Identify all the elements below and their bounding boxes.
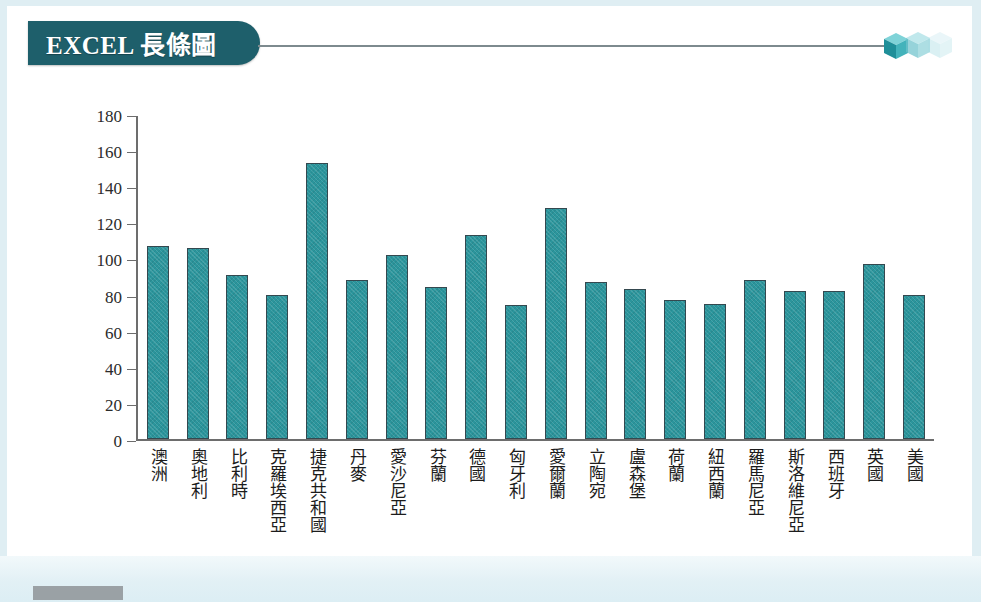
bar — [863, 264, 885, 439]
x-label-slot: 愛爾蘭 — [536, 448, 576, 533]
x-tick-label: 澳洲 — [149, 448, 166, 533]
bar-slot — [417, 116, 457, 439]
y-tick-label: 80 — [62, 288, 122, 308]
x-tick-label: 愛沙尼亞 — [388, 448, 405, 533]
y-tick-label: 0 — [62, 432, 122, 452]
x-axis-line — [136, 439, 934, 441]
frame-right-edge — [972, 0, 981, 602]
bar-slot — [894, 116, 934, 439]
x-label-slot: 澳洲 — [138, 448, 178, 533]
bar-slot — [536, 116, 576, 439]
x-label-slot: 愛沙尼亞 — [377, 448, 417, 533]
y-tick-label: 160 — [62, 143, 122, 163]
x-tick-label: 荷蘭 — [667, 448, 684, 533]
x-tick-label: 紐西蘭 — [706, 448, 723, 533]
x-tick-label: 奧地利 — [189, 448, 206, 533]
y-tick-mark — [127, 369, 136, 370]
x-tick-label: 捷克共和國 — [308, 448, 325, 533]
x-tick-label: 美國 — [905, 448, 922, 533]
x-label-slot: 英國 — [854, 448, 894, 533]
x-tick-label: 英國 — [866, 448, 883, 533]
bar-slot — [337, 116, 377, 439]
bar — [147, 246, 169, 439]
bar-slot — [456, 116, 496, 439]
x-tick-label: 匈牙利 — [507, 448, 524, 533]
bar-slot — [775, 116, 815, 439]
bar — [465, 235, 487, 439]
bar — [505, 305, 527, 439]
bar — [386, 255, 408, 439]
bar — [346, 280, 368, 439]
bar-slot — [695, 116, 735, 439]
bar-slot — [496, 116, 536, 439]
x-label-slot: 克羅埃西亞 — [257, 448, 297, 533]
x-tick-label: 德國 — [468, 448, 485, 533]
x-tick-label: 斯洛維尼亞 — [786, 448, 803, 533]
bar-slot — [616, 116, 656, 439]
bar-slot — [297, 116, 337, 439]
bar-slot — [178, 116, 218, 439]
bar-slot — [815, 116, 855, 439]
bar — [704, 304, 726, 439]
bar — [425, 287, 447, 439]
bar-slot — [218, 116, 258, 439]
y-tick-mark — [127, 297, 136, 298]
x-label-slot: 荷蘭 — [655, 448, 695, 533]
y-tick-mark — [127, 441, 136, 442]
bar — [545, 208, 567, 439]
x-label-slot: 匈牙利 — [496, 448, 536, 533]
x-label-slot: 奧地利 — [178, 448, 218, 533]
bar — [784, 291, 806, 439]
bar — [585, 282, 607, 439]
y-tick-mark — [127, 333, 136, 334]
y-tick-mark — [127, 188, 136, 189]
bar — [664, 300, 686, 439]
x-axis-labels: 澳洲奧地利比利時克羅埃西亞捷克共和國丹麥愛沙尼亞芬蘭德國匈牙利愛爾蘭立陶宛盧森堡… — [138, 448, 934, 533]
x-tick-label: 西班牙 — [826, 448, 843, 533]
frame-top-edge — [0, 0, 981, 6]
bar-slot — [257, 116, 297, 439]
bar-slot — [655, 116, 695, 439]
x-label-slot: 芬蘭 — [417, 448, 457, 533]
y-tick-label: 100 — [62, 251, 122, 271]
y-tick-label: 60 — [62, 324, 122, 344]
bar — [624, 289, 646, 439]
x-label-slot: 丹麥 — [337, 448, 377, 533]
x-tick-label: 立陶宛 — [587, 448, 604, 533]
x-label-slot: 盧森堡 — [616, 448, 656, 533]
x-label-slot: 比利時 — [218, 448, 258, 533]
title-rule-line — [258, 45, 893, 47]
bar-slot — [735, 116, 775, 439]
bar-slot — [576, 116, 616, 439]
x-label-slot: 立陶宛 — [576, 448, 616, 533]
x-tick-label: 羅馬尼亞 — [746, 448, 763, 533]
page-title: EXCEL 長條圖 — [46, 25, 217, 61]
y-tick-mark — [127, 116, 136, 117]
bar — [744, 280, 766, 439]
x-tick-label: 丹麥 — [348, 448, 365, 533]
bar — [266, 295, 288, 439]
bar-slot — [138, 116, 178, 439]
bar — [823, 291, 845, 439]
x-tick-label: 芬蘭 — [428, 448, 445, 533]
y-tick-label: 20 — [62, 396, 122, 416]
x-tick-label: 比利時 — [229, 448, 246, 533]
footer-tab — [33, 586, 123, 600]
title-banner: EXCEL 長條圖 — [28, 21, 260, 65]
y-tick-mark — [127, 405, 136, 406]
y-tick-label: 180 — [62, 107, 122, 127]
frame-left-edge — [0, 0, 7, 602]
x-label-slot: 羅馬尼亞 — [735, 448, 775, 533]
y-tick-label: 140 — [62, 179, 122, 199]
x-label-slot: 紐西蘭 — [695, 448, 735, 533]
y-tick-mark — [127, 224, 136, 225]
bar — [903, 295, 925, 439]
x-tick-label: 克羅埃西亞 — [269, 448, 286, 533]
x-label-slot: 捷克共和國 — [297, 448, 337, 533]
bar — [187, 248, 209, 439]
bar-series — [138, 116, 934, 439]
bar — [306, 163, 328, 439]
x-tick-label: 盧森堡 — [627, 448, 644, 533]
y-tick-label: 120 — [62, 215, 122, 235]
y-tick-mark — [127, 260, 136, 261]
